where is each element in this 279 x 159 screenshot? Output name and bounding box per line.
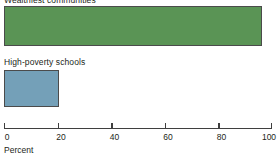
x-axis-tick-label-5: 100: [262, 132, 276, 142]
x-axis-tick-label-3: 60: [163, 132, 172, 142]
horizontal-bar-chart: Wealthiest communities High-poverty scho…: [0, 0, 279, 159]
x-axis-tick-2: [111, 123, 112, 129]
bar-label-wealthiest-communities: Wealthiest communities: [4, 0, 96, 5]
x-axis-line: [4, 128, 272, 129]
bar-label-high-poverty-schools: High-poverty schools: [4, 57, 85, 67]
x-axis-tick-label-4: 80: [217, 132, 226, 142]
bar-high-poverty-schools: [4, 70, 59, 107]
x-axis-title: Percent: [4, 145, 33, 155]
x-axis-tick-3: [165, 123, 166, 129]
x-axis-tick-0: [4, 123, 5, 129]
x-axis-tick-4: [218, 123, 219, 129]
bar-wealthiest-communities: [4, 6, 262, 46]
x-axis-tick-label-1: 20: [56, 132, 65, 142]
x-axis-tick-1: [58, 123, 59, 129]
x-axis-tick-5: [271, 123, 272, 129]
x-axis: 0 20 40 60 80 100 Percent: [0, 120, 279, 159]
x-axis-tick-label-0: 0: [5, 132, 10, 142]
x-axis-tick-label-2: 40: [110, 132, 119, 142]
